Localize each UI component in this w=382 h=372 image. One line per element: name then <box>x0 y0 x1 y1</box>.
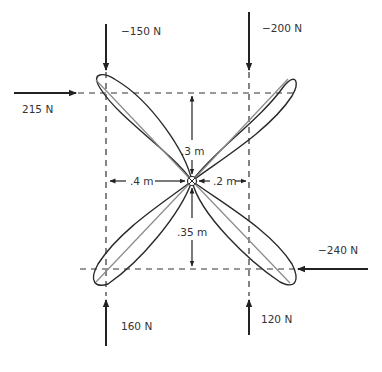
dimension-label-up: .3 m <box>181 145 205 157</box>
lobe-top-right <box>192 79 296 181</box>
force-label-120: 120 N <box>261 313 292 325</box>
force-diagram: −150 N −200 N 215 N −240 N 160 N 120 N .… <box>0 0 382 372</box>
center-pivot-icon <box>188 177 197 186</box>
dimension-label-down: .35 m <box>177 226 207 238</box>
lobe-top-left <box>96 75 192 181</box>
force-label-215: 215 N <box>22 103 53 115</box>
dimension-label-left: .4 m <box>130 175 154 187</box>
force-label-minus200: −200 N <box>262 22 302 34</box>
force-label-160: 160 N <box>121 320 152 332</box>
force-label-minus150: −150 N <box>121 25 161 37</box>
dimension-label-right: .2 m <box>213 175 237 187</box>
force-label-minus240: −240 N <box>318 244 358 256</box>
